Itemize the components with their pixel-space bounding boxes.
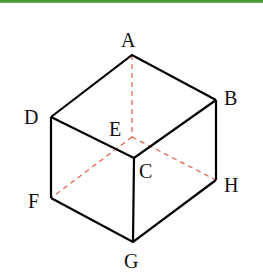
vertex-label-H: H <box>224 174 238 196</box>
visible-edges <box>51 55 216 242</box>
vertex-label-E: E <box>109 118 121 140</box>
edge-DCB <box>51 100 216 158</box>
vertex-label-A: A <box>121 29 136 51</box>
vertex-label-G: G <box>124 250 138 272</box>
edge-DAB <box>51 55 216 117</box>
vertex-label-F: F <box>28 190 39 212</box>
vertex-label-B: B <box>224 87 237 109</box>
vertex-label-D: D <box>24 106 38 128</box>
vertex-label-C: C <box>139 160 152 182</box>
edge-CG <box>133 158 134 242</box>
cube-diagram: A B C D E F G H <box>0 0 263 278</box>
edge-EF <box>51 137 132 198</box>
